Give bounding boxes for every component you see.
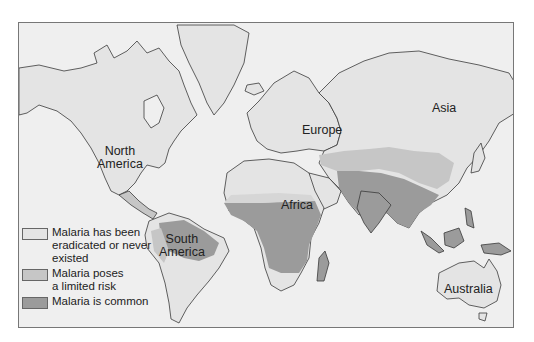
philippines: [465, 208, 474, 228]
label-north-america: North America: [97, 145, 143, 171]
legend: Malaria has been eradicated or never exi…: [22, 226, 172, 311]
legend-label-eradicated: Malaria has been eradicated or never exi…: [52, 226, 172, 265]
madagascar: [317, 251, 329, 281]
label-north-america-line2: America: [97, 158, 143, 171]
north-america-landmass: [19, 41, 197, 195]
legend-item-eradicated: Malaria has been eradicated or never exi…: [22, 226, 172, 265]
label-asia: Asia: [432, 102, 456, 115]
borneo: [444, 228, 464, 248]
legend-swatch-limited: [22, 269, 48, 281]
legend-item-common: Malaria is common: [22, 295, 172, 309]
sumatra: [421, 231, 444, 253]
legend-label-common: Malaria is common: [52, 295, 172, 308]
label-africa: Africa: [281, 199, 313, 212]
central-america: [119, 191, 157, 219]
legend-label-limited: Malaria poses a limited risk: [52, 267, 132, 293]
europe-landmass: [247, 71, 341, 153]
legend-swatch-common: [22, 297, 48, 309]
legend-swatch-eradicated: [22, 228, 48, 240]
legend-item-limited: Malaria poses a limited risk: [22, 267, 172, 293]
new-guinea: [481, 243, 511, 255]
label-europe: Europe: [302, 124, 342, 137]
label-australia: Australia: [444, 283, 493, 296]
